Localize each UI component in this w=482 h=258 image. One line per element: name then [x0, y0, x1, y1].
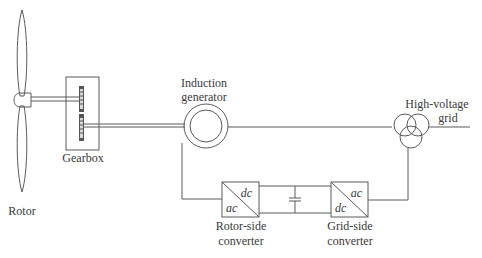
gsc-ac-label: ac: [351, 186, 363, 200]
dfig-diagram: Rotor Gearbox Induction generator High-v…: [0, 0, 482, 258]
gear-icon: [79, 86, 84, 141]
gsc-dc-label: dc: [335, 201, 347, 215]
rsc-dc-label: dc: [241, 186, 253, 200]
rsc-ac-label: ac: [226, 201, 238, 215]
gsc-to-transformer-line: [368, 148, 408, 200]
grid-label-2: grid: [438, 111, 457, 125]
rotor: [14, 10, 31, 192]
gsc-label-1: Grid-side: [327, 219, 372, 233]
rotor-hub: [14, 93, 31, 107]
generator-stator-circle: [184, 104, 228, 148]
rsc-label-1: Rotor-side: [216, 219, 266, 233]
gearbox-label: Gearbox: [62, 151, 103, 165]
rotor-label: Rotor: [8, 204, 35, 218]
rotor-blade-lower: [17, 106, 27, 192]
generator-rotor-circle: [190, 110, 222, 142]
rsc-label-2: converter: [218, 234, 263, 248]
transformer-icon: [394, 114, 429, 148]
capacitor-icon: [289, 186, 301, 213]
generator-label-1: Induction: [181, 76, 227, 90]
generator-label-2: generator: [181, 90, 226, 104]
rotor-line: [182, 143, 222, 199]
rotor-blade-upper: [17, 10, 27, 96]
gsc-label-2: converter: [327, 234, 372, 248]
grid-label-1: High-voltage: [405, 97, 468, 111]
